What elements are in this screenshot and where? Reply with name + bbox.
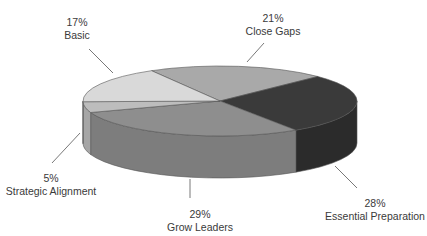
leader-line-strategic-alignment [52,133,80,163]
leader-line-essential-preparation [335,166,357,188]
label-grow-leaders-pct: 29% [167,208,233,221]
leader-line-basic [89,49,113,73]
label-strategic-alignment-pct: 5% [6,172,96,185]
label-strategic-alignment-name: Strategic Alignment [6,185,96,198]
label-grow-leaders: 29% Grow Leaders [167,208,233,234]
label-close-gaps: 21% Close Gaps [246,12,301,38]
label-essential-preparation: 28% Essential Preparation [325,197,425,223]
label-essential-preparation-pct: 28% [325,197,425,210]
label-basic-name: Basic [64,29,90,42]
leader-line-close-gaps [247,43,264,62]
label-basic-pct: 17% [64,16,90,29]
label-grow-leaders-name: Grow Leaders [167,221,233,234]
label-essential-preparation-name: Essential Preparation [325,210,425,223]
label-strategic-alignment: 5% Strategic Alignment [6,172,96,198]
label-basic: 17% Basic [64,16,90,42]
pie-top [83,66,357,136]
label-close-gaps-name: Close Gaps [246,25,301,38]
label-close-gaps-pct: 21% [246,12,301,25]
